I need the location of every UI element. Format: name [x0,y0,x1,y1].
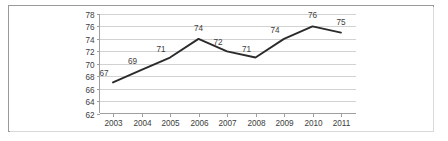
y-axis-tick-labels: 626466687072747678 [85,11,95,120]
data-point-labels: 676971747271747675 [99,11,346,78]
data-point-label: 71 [156,45,166,54]
y-tick-label: 78 [85,11,95,20]
x-tick-label: 2005 [161,119,180,128]
data-point-label: 71 [242,45,252,54]
data-point-label: 75 [336,18,346,27]
y-tick-label: 72 [85,48,95,57]
y-tick-label: 76 [85,23,95,32]
screenshot-root: 626466687072747678 200320042005200620072… [0,0,448,141]
x-tick-label: 2011 [333,119,351,128]
x-tick-label: 2009 [275,119,294,128]
y-tick-label: 74 [85,36,95,45]
x-tick-label: 2004 [133,119,152,128]
y-tick-label: 64 [85,98,95,107]
x-tick-label: 2007 [218,119,237,128]
y-tick-label: 66 [85,86,95,95]
data-point-label: 74 [194,24,204,33]
x-tick-label: 2010 [304,119,323,128]
x-tick-label: 2003 [104,119,123,128]
data-point-label: 74 [270,26,280,35]
y-tick-label: 62 [85,111,95,120]
data-point-label: 69 [128,57,138,66]
y-tick-label: 70 [85,61,95,70]
data-point-label: 67 [99,69,109,78]
y-tick-label: 68 [85,73,95,82]
data-series-line [113,26,341,82]
x-axis-tick-labels: 200320042005200620072008200920102011 [104,119,350,128]
x-tick-label: 2006 [190,119,209,128]
x-tick-label: 2008 [247,119,266,128]
data-point-label: 76 [308,11,318,20]
data-point-label: 72 [213,38,223,47]
line-chart: 626466687072747678 200320042005200620072… [0,0,448,141]
